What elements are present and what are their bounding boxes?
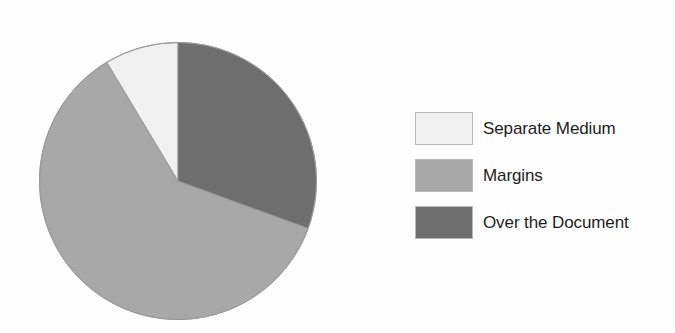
pie-chart-graphic [39,42,317,320]
pie-chart-figure: Separate Medium Margins Over the Documen… [0,0,675,333]
legend-item-over-the-document: Over the Document [415,206,665,239]
legend-label-separate-medium: Separate Medium [483,120,616,137]
legend-label-margins: Margins [483,167,543,184]
legend: Separate Medium Margins Over the Documen… [415,112,665,239]
legend-swatch-margins [415,159,473,192]
pie-svg [39,42,317,320]
pie-slice-group [40,43,317,320]
legend-item-margins: Margins [415,159,665,192]
legend-label-over-the-document: Over the Document [483,214,629,231]
legend-item-separate-medium: Separate Medium [415,112,665,145]
legend-swatch-separate-medium [415,112,473,145]
legend-swatch-over-the-document [415,206,473,239]
